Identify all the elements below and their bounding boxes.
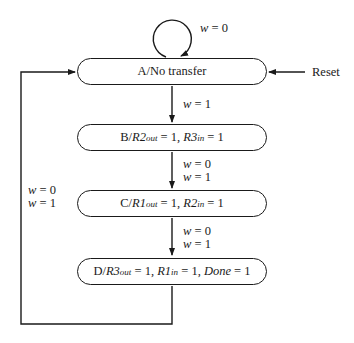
eq: = 0 xyxy=(208,21,228,35)
state-b: B/R2out = 1, R3in = 1 xyxy=(77,124,267,151)
eq: = 1 xyxy=(191,97,211,111)
eq: = 1, xyxy=(157,196,183,211)
eq: = 1 xyxy=(204,196,224,211)
state-c-name: C xyxy=(120,196,128,211)
label-a-a: w = 0 xyxy=(200,22,228,35)
eq: = 1, xyxy=(178,264,204,279)
self-loop-arrow xyxy=(153,20,191,57)
label-a-b: w = 1 xyxy=(183,98,211,111)
signal: R1 xyxy=(157,264,171,279)
eq: = 1 xyxy=(231,264,251,279)
state-a: A/No transfer xyxy=(77,58,267,85)
eq: = 1, xyxy=(157,130,183,145)
eq: = 0 xyxy=(191,157,211,171)
eq: = 1, xyxy=(131,264,157,279)
eq: = 0 xyxy=(36,183,56,197)
signal: R1 xyxy=(132,196,146,211)
signal: R3 xyxy=(183,130,197,145)
state-a-label: A/No transfer xyxy=(137,64,206,79)
signal: R3 xyxy=(106,264,120,279)
state-d: D/R3out = 1, R1in = 1, Done = 1 xyxy=(77,258,267,285)
signal: R2 xyxy=(132,130,146,145)
signal: R2 xyxy=(183,196,197,211)
label-b-c: w = 0 w = 1 xyxy=(183,158,211,184)
eq: = 1 xyxy=(36,196,56,210)
state-c: C/R1out = 1, R2in = 1 xyxy=(77,190,267,217)
state-b-name: B xyxy=(120,130,128,145)
label-c-d: w = 0 w = 1 xyxy=(183,225,211,251)
label-d-a: w = 0 w = 1 xyxy=(28,184,56,210)
eq: = 1 xyxy=(204,130,224,145)
eq: = 1 xyxy=(191,170,211,184)
eq: = 0 xyxy=(191,224,211,238)
signal: Done xyxy=(204,264,231,279)
reset-label: Reset xyxy=(312,66,340,79)
state-d-name: D xyxy=(93,264,102,279)
diagram-lines xyxy=(0,0,354,343)
eq: = 1 xyxy=(191,237,211,251)
